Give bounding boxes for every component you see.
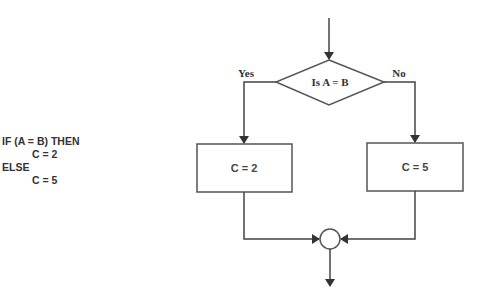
no-connector [384,82,415,142]
yes-connector [244,82,276,143]
decision-label: Is A = B [311,76,349,88]
no-label: No [392,67,406,79]
yes-label: Yes [238,67,255,79]
flowchart: Is A = B Yes No C = 2 C = 5 [0,0,482,301]
merge-connector-left [244,192,319,239]
process-yes-label: C = 2 [231,162,258,174]
process-no-label: C = 5 [402,161,429,173]
merge-connector-circle [320,229,340,249]
merge-connector-right [341,191,415,239]
